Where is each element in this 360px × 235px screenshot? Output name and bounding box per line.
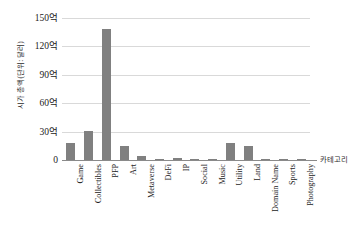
y-axis-tick-label: 0: [18, 155, 58, 165]
x-axis-tick-label: Land: [252, 162, 264, 232]
bar: [120, 146, 129, 160]
plot-area: [62, 18, 310, 160]
x-axis-tick-label: Photography: [305, 162, 317, 232]
x-axis-tick-label: PFP: [110, 162, 122, 232]
bars: [62, 18, 310, 160]
bar: [84, 131, 93, 160]
x-axis-tick-label: Music: [217, 162, 229, 232]
bar-chart: 시가 총액(단위: 달러) 030억60억90억120억150억 GameCol…: [0, 0, 360, 235]
x-axis-tick-label: Metaverse: [146, 162, 158, 232]
x-axis-tick-label: Collectibles: [93, 162, 105, 232]
y-axis-tick-label: 60억: [18, 98, 58, 108]
x-axis-tick-labels: GameCollectiblesPFPArtMetaverseDeFiIPSoc…: [62, 162, 310, 235]
x-axis-tick-label: Domain Name: [270, 162, 282, 232]
x-axis-tick-label: DeFi: [163, 162, 175, 232]
x-axis-tick-label: Game: [75, 162, 87, 232]
y-axis-tick-label: 90억: [18, 70, 58, 80]
y-axis-tick-label: 30억: [18, 127, 58, 137]
x-axis-tick-label: IP: [181, 162, 193, 232]
x-axis-tick-label: Social: [199, 162, 211, 232]
y-axis-tick-label: 150억: [18, 13, 58, 23]
x-axis-tick-label: Art: [128, 162, 140, 232]
x-axis-tick-label: Sports: [287, 162, 299, 232]
bar: [226, 143, 235, 160]
y-axis-tick-label: 120억: [18, 41, 58, 51]
x-axis-tick-label: Utility: [234, 162, 246, 232]
x-axis-title: 카테고리: [320, 155, 348, 165]
bar: [66, 143, 75, 160]
bar: [102, 29, 111, 160]
x-axis-line: [62, 160, 317, 161]
y-axis-tick-labels: 030억60억90억120억150억: [18, 0, 58, 235]
bar: [244, 146, 253, 160]
